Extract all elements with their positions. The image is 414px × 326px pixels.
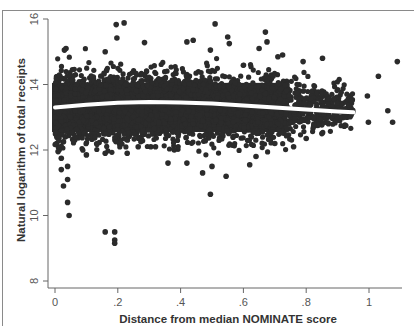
x-axis-title: Distance from median NOMINATE score	[119, 313, 337, 325]
data-point	[270, 129, 275, 134]
data-point	[115, 66, 120, 71]
data-point	[237, 92, 242, 97]
data-point	[53, 86, 58, 91]
data-point	[232, 128, 237, 133]
data-point	[341, 86, 346, 91]
data-point	[89, 118, 94, 123]
data-point	[193, 78, 198, 83]
outlier-point	[208, 47, 214, 53]
data-point	[71, 140, 76, 145]
outlier-point	[65, 200, 71, 206]
data-point	[233, 81, 238, 86]
data-point	[64, 127, 69, 132]
data-point	[256, 70, 261, 75]
data-point	[344, 92, 349, 97]
data-point	[242, 125, 247, 130]
data-point	[93, 89, 98, 94]
outlier-point	[113, 22, 119, 28]
data-point	[244, 143, 249, 148]
data-point	[198, 134, 203, 139]
data-point	[59, 132, 64, 137]
data-point	[219, 120, 224, 125]
outlier-point	[55, 149, 61, 155]
outlier-point	[59, 155, 65, 161]
data-point	[115, 96, 120, 101]
data-point	[130, 82, 135, 87]
data-point	[162, 108, 167, 113]
data-point	[314, 91, 319, 96]
data-point	[84, 66, 89, 71]
outlier-point	[65, 164, 71, 170]
outlier-point	[114, 35, 120, 41]
data-point	[227, 84, 232, 89]
data-point	[134, 71, 139, 76]
outlier-point	[272, 141, 278, 147]
data-point	[170, 78, 175, 83]
data-point	[241, 63, 246, 68]
data-point	[278, 97, 283, 102]
data-point	[260, 110, 265, 115]
y-tick-label: 14	[28, 78, 40, 90]
data-point	[196, 92, 201, 97]
data-point	[72, 67, 77, 72]
data-point	[53, 130, 58, 135]
data-point	[177, 89, 182, 94]
data-point	[125, 76, 130, 81]
data-point	[85, 133, 90, 138]
data-point	[205, 112, 210, 117]
data-point	[162, 143, 167, 148]
data-point	[276, 121, 281, 126]
outlier-point	[102, 229, 108, 235]
y-axis-title: Natural logarithm of total receipts	[15, 58, 27, 242]
data-point	[140, 93, 145, 98]
outlier-point	[184, 160, 190, 166]
data-point	[185, 140, 190, 145]
data-point	[169, 65, 174, 70]
data-point	[157, 77, 162, 82]
data-point	[74, 127, 79, 132]
data-point	[79, 146, 84, 151]
data-point	[188, 92, 193, 97]
outlier-point	[84, 152, 90, 158]
data-point	[302, 118, 307, 123]
data-point	[91, 68, 96, 73]
outlier-point	[247, 162, 253, 168]
data-point	[73, 87, 78, 92]
data-point	[318, 98, 323, 103]
data-point	[67, 114, 72, 119]
data-point	[118, 88, 123, 93]
outlier-point	[320, 56, 326, 62]
data-point	[272, 95, 277, 100]
outlier-point	[291, 144, 297, 150]
data-point	[55, 92, 60, 97]
data-point	[328, 129, 333, 134]
data-point	[108, 60, 113, 65]
data-point	[260, 141, 265, 146]
data-point	[86, 60, 91, 65]
data-point	[132, 137, 137, 142]
data-point	[191, 121, 196, 126]
data-point	[301, 88, 306, 93]
data-point	[260, 135, 265, 140]
data-point	[248, 133, 253, 138]
data-point	[197, 113, 202, 118]
data-point	[171, 140, 176, 145]
data-point	[104, 144, 109, 149]
data-point	[149, 80, 154, 85]
data-point	[250, 80, 255, 85]
data-point	[151, 137, 156, 142]
outlier-point	[253, 154, 259, 160]
data-point	[101, 125, 106, 130]
outlier-point	[112, 229, 118, 235]
data-point	[283, 83, 288, 88]
data-point	[279, 109, 284, 114]
data-point	[253, 138, 258, 143]
data-point	[305, 74, 310, 79]
data-point	[156, 93, 161, 98]
data-point	[230, 134, 235, 139]
outlier-point	[61, 183, 67, 189]
data-point	[301, 129, 306, 134]
data-point	[289, 79, 294, 84]
data-point	[260, 130, 265, 135]
data-point	[218, 137, 223, 142]
